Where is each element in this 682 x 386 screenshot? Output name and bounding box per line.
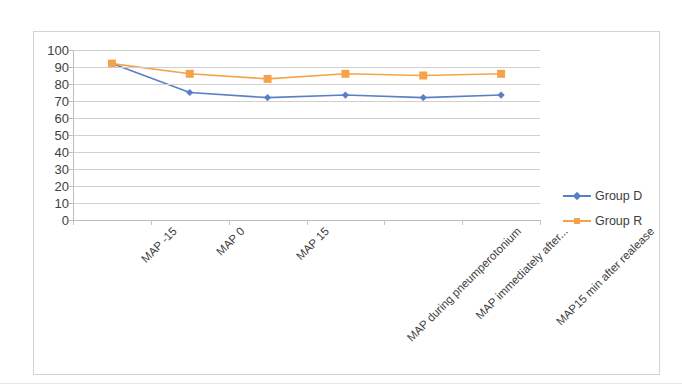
gridline-y-30 [73, 169, 540, 170]
x-tick-mark-6 [540, 220, 541, 225]
page-bottom-edge [0, 383, 682, 384]
gridline-y-100 [73, 50, 540, 51]
y-tick-mark-20 [69, 186, 73, 187]
legend-label-group-d: Group D [591, 189, 642, 203]
data-point-square [419, 72, 427, 80]
data-point-diamond [342, 91, 349, 98]
x-tick-label-1: MAP 0 [214, 225, 247, 258]
series-line-0 [112, 64, 501, 98]
data-point-square [186, 70, 194, 78]
x-tick-label-2: MAP 15 [293, 225, 330, 262]
y-tick-label-70: 70 [33, 95, 69, 108]
data-point-square [264, 75, 272, 83]
data-point-diamond [497, 91, 504, 98]
y-tick-mark-60 [69, 118, 73, 119]
legend-item-group-r[interactable]: Group R [563, 208, 655, 233]
gridline-y-70 [73, 101, 540, 102]
gridline-y-90 [73, 67, 540, 68]
legend-marker-square-icon [574, 218, 580, 224]
y-tick-label-10: 10 [33, 197, 69, 210]
data-point-diamond [186, 89, 193, 96]
y-axis-tick-labels: 1009080706050403020100 [33, 50, 69, 220]
gridline-y-80 [73, 84, 540, 85]
y-tick-label-60: 60 [33, 112, 69, 125]
gridline-y-60 [73, 118, 540, 119]
chart-figure: 1009080706050403020100 MAP -15MAP 0MAP 1… [0, 0, 682, 386]
y-tick-label-50: 50 [33, 129, 69, 142]
y-tick-label-80: 80 [33, 78, 69, 91]
y-tick-label-0: 0 [33, 214, 69, 227]
y-tick-mark-70 [69, 101, 73, 102]
gridline-y-20 [73, 186, 540, 187]
y-tick-label-40: 40 [33, 146, 69, 159]
gridline-y-50 [73, 135, 540, 136]
gridline-y-10 [73, 203, 540, 204]
x-tick-label-0: MAP -15 [139, 225, 179, 265]
chart-legend: Group D Group R [563, 183, 655, 233]
legend-swatch-group-d [563, 190, 591, 202]
plot-area [73, 50, 540, 219]
series-line-1 [112, 64, 501, 79]
y-tick-label-30: 30 [33, 163, 69, 176]
plot-inner [73, 50, 540, 219]
y-tick-mark-30 [69, 169, 73, 170]
x-axis-tick-labels: MAP -15MAP 0MAP 15MAP during pneumperoto… [73, 219, 540, 369]
series-group-r [108, 60, 505, 83]
y-tick-label-100: 100 [33, 44, 69, 57]
y-tick-mark-80 [69, 84, 73, 85]
y-tick-mark-100 [69, 50, 73, 51]
y-tick-mark-50 [69, 135, 73, 136]
data-point-square [497, 70, 505, 78]
y-tick-mark-90 [69, 67, 73, 68]
y-tick-mark-10 [69, 203, 73, 204]
legend-swatch-group-r [563, 215, 591, 227]
y-tick-mark-40 [69, 152, 73, 153]
data-point-square [341, 70, 349, 78]
y-tick-label-20: 20 [33, 180, 69, 193]
legend-label-group-r: Group R [591, 214, 642, 228]
legend-marker-diamond-icon [573, 191, 581, 199]
legend-item-group-d[interactable]: Group D [563, 183, 655, 208]
gridline-y-40 [73, 152, 540, 153]
y-tick-label-90: 90 [33, 61, 69, 74]
